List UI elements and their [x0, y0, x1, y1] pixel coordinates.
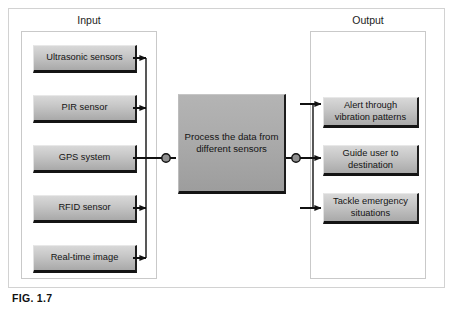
- figure-caption: FIG. 1.7: [12, 292, 52, 304]
- node-pir-sensor[interactable]: PIR sensor: [33, 95, 137, 123]
- node-alert-vibration[interactable]: Alert through vibration patterns: [323, 97, 419, 128]
- output-group-title: Output: [310, 14, 426, 26]
- input-group-title: Input: [21, 14, 157, 26]
- node-process-data[interactable]: Process the data from different sensors: [178, 94, 286, 194]
- node-guide-user[interactable]: Guide user to destination: [323, 145, 419, 176]
- node-rfid-sensor[interactable]: RFID sensor: [33, 195, 137, 223]
- node-real-time-image[interactable]: Real-time image: [33, 245, 137, 273]
- node-tackle-emergency[interactable]: Tackle emergency situations: [323, 193, 419, 224]
- figure-frame: Input Output Ultrasonic sensors PIR sens…: [8, 8, 445, 288]
- node-gps-system[interactable]: GPS system: [33, 145, 137, 173]
- node-ultrasonic-sensors[interactable]: Ultrasonic sensors: [33, 45, 137, 73]
